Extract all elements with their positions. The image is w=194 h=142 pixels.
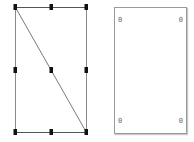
corner-label-top-right: 0 [179,17,183,24]
corner-label-bottom-right: 0 [179,118,183,125]
corner-label-bottom-left: 0 [118,118,122,125]
resize-handle[interactable] [85,67,89,73]
resize-handle[interactable] [50,129,54,135]
resize-handle[interactable] [50,67,54,73]
resize-handle[interactable] [14,67,18,73]
resize-handle[interactable] [85,4,89,10]
selected-rectangle-shape[interactable] [0,0,100,142]
right-rectangle-panel[interactable]: 0 0 0 0 [114,7,187,134]
resize-handle[interactable] [50,4,54,10]
resize-handle[interactable] [14,4,18,10]
resize-handle[interactable] [85,129,89,135]
resize-handle[interactable] [14,129,18,135]
corner-label-top-left: 0 [118,17,122,24]
